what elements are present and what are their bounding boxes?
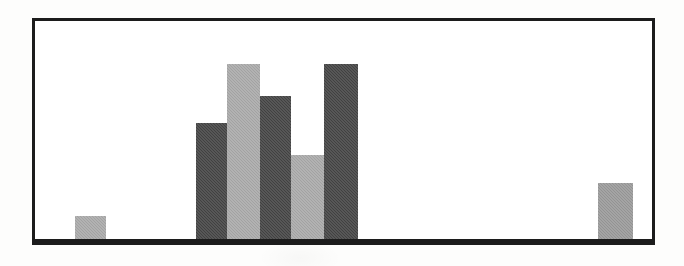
bar-7 (598, 183, 633, 242)
bar-3 (227, 64, 260, 242)
bar-2 (196, 123, 227, 242)
bar-4 (260, 96, 291, 242)
bar-6 (324, 64, 358, 242)
plot-area (35, 21, 652, 242)
x-axis-baseline (35, 239, 652, 242)
chart-frame (32, 18, 655, 245)
bar-5 (291, 155, 324, 242)
